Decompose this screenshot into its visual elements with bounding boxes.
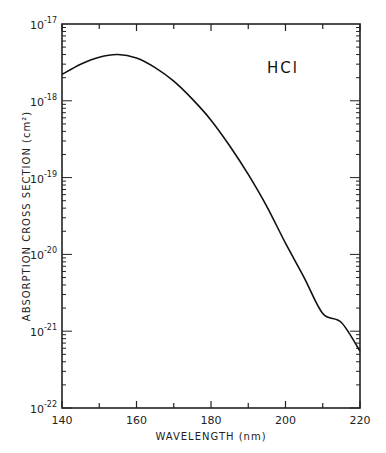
svg-text:180: 180 — [201, 414, 222, 427]
plot-frame — [62, 24, 360, 408]
svg-text:200: 200 — [275, 414, 296, 427]
species-label: HCl — [267, 59, 299, 77]
y-axis-label: ABSORPTION CROSS SECTION (cm²) — [21, 111, 32, 321]
svg-text:140: 140 — [52, 414, 73, 427]
y-axis-ticks: 10-1710-1810-1910-2010-2110-22 — [30, 16, 360, 416]
svg-text:10-20: 10-20 — [30, 246, 57, 262]
svg-text:160: 160 — [126, 414, 147, 427]
svg-text:10-17: 10-17 — [30, 16, 57, 32]
svg-text:10-19: 10-19 — [30, 170, 57, 186]
chart: 140160180200220 10-1710-1810-1910-2010-2… — [0, 0, 386, 453]
x-axis-label: WAVELENGTH (nm) — [155, 431, 266, 442]
svg-text:220: 220 — [350, 414, 371, 427]
x-axis-ticks: 140160180200220 — [52, 24, 371, 427]
svg-text:10-21: 10-21 — [30, 323, 57, 339]
svg-text:10-18: 10-18 — [30, 93, 57, 109]
hcl-curve — [62, 55, 360, 352]
